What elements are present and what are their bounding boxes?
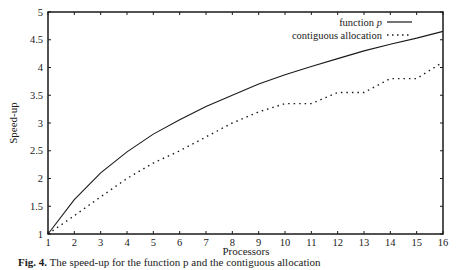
x-tick-label: 16 [438,237,449,248]
legend-label-contiguous-allocation: contiguous allocation [292,30,383,41]
x-tick-label: 10 [280,237,291,248]
x-tick-label: 3 [98,237,103,248]
x-tick-label: 1 [45,237,50,248]
y-tick-label: 5 [38,7,43,18]
y-tick-label: 3 [38,118,43,129]
legend-label-function-p: function p [339,17,382,28]
x-tick-label: 5 [151,237,156,248]
x-tick-label: 15 [411,237,422,248]
x-tick-label: 2 [72,237,77,248]
figure-caption: Fig. 4. The speed-up for the function p … [18,256,458,270]
x-tick-label: 14 [385,237,396,248]
y-tick-label: 2.5 [30,145,43,156]
x-tick-label: 12 [332,237,343,248]
y-tick-label: 1 [38,229,43,240]
y-tick-label: 4.5 [30,34,43,45]
y-tick-label: 3.5 [30,90,43,101]
series-lines [48,31,443,234]
x-tick-label: 13 [359,237,370,248]
y-tick-label: 4 [38,62,44,73]
y-axis-label: Speed-up [7,102,19,144]
x-tick-label: 7 [203,237,208,248]
axis-ticks: 1234567891011121314151611.522.533.544.55 [30,7,448,249]
x-tick-label: 4 [124,237,130,248]
series-line-contiguous-allocation [48,62,443,234]
caption-label: Fig. 4. [18,256,47,268]
x-tick-label: 6 [177,237,182,248]
caption-text: The speed-up for the function p and the … [50,256,321,268]
x-tick-label: 11 [306,237,316,248]
series-line-function-p [48,31,443,234]
legend: function p contiguous allocation [292,17,412,41]
plot-frame [48,12,443,234]
y-tick-label: 1.5 [30,201,43,212]
y-tick-label: 2 [38,173,43,184]
